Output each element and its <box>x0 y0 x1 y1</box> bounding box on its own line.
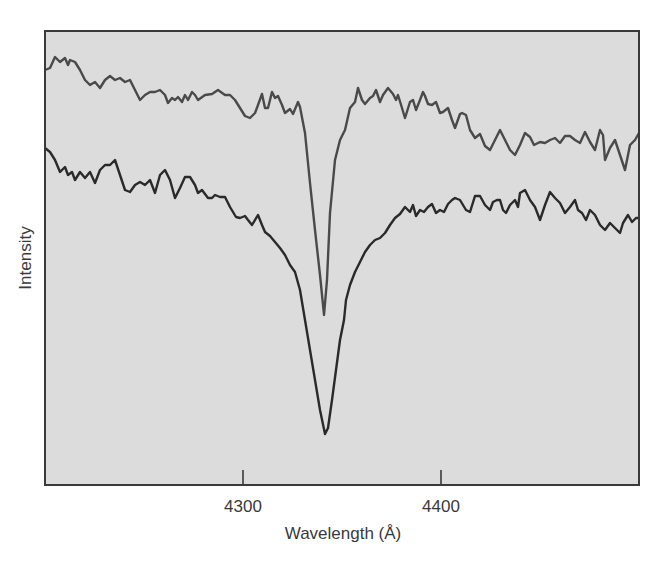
x-tick-label: 4400 <box>422 497 460 517</box>
x-tick-label: 4300 <box>224 497 262 517</box>
spectrum-chart <box>0 0 658 562</box>
x-axis-label: Wavelength (Å) <box>285 524 402 544</box>
y-axis-label: Intensity <box>16 226 36 289</box>
plot-area <box>45 31 639 485</box>
